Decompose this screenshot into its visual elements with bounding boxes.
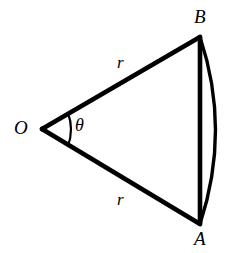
sector-geometry-svg (0, 0, 238, 253)
radius-line-upper (42, 37, 200, 129)
sector-diagram: O B A r r θ (0, 0, 238, 253)
central-angle-arc (68, 113, 71, 146)
vertex-label-o: O (14, 118, 28, 137)
radius-line-lower (42, 129, 200, 224)
circular-arc-ba (200, 37, 216, 224)
radius-label-lower: r (117, 191, 124, 208)
vertex-label-a: A (194, 229, 206, 248)
radius-label-upper: r (117, 54, 124, 71)
central-angle-label-theta: θ (75, 116, 84, 134)
vertex-label-b: B (194, 7, 206, 26)
